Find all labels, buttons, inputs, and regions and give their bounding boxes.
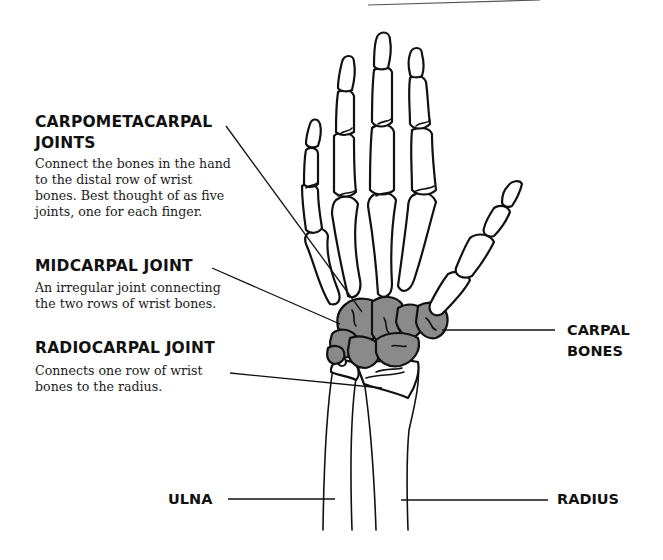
phalanges-thumb — [456, 181, 522, 277]
radiocarpal-title: RADIOCARPAL JOINT — [35, 338, 215, 359]
midcarpal-desc-line1: An irregular joint connecting — [35, 280, 221, 297]
top-rule — [368, 0, 540, 5]
phalanges-ring-finger — [334, 56, 356, 197]
carpometacarpal-desc-line2: to the distal row of wrist — [35, 172, 192, 189]
carpal-bones-label-line1: CARPAL — [567, 320, 630, 340]
carpometacarpal-desc-line1: Connect the bones in the hand — [35, 156, 231, 173]
radius-label: RADIUS — [557, 489, 619, 509]
phalanges-little-finger — [302, 120, 322, 233]
radius-bone — [358, 360, 419, 530]
carpal-bones-label-line2: BONES — [567, 341, 623, 361]
carpometacarpal-title-line2: JOINTS — [35, 133, 96, 154]
carpometacarpal-desc-line4: joints, one for each finger. — [35, 204, 202, 221]
ulna-label: ULNA — [168, 489, 212, 509]
phalanges-middle-finger — [370, 33, 394, 195]
radiocarpal-desc-line2: bones to the radius. — [35, 379, 162, 396]
midcarpal-desc-line2: the two rows of wrist bones. — [35, 296, 216, 313]
carpometacarpal-title-line1: CARPOMETACARPAL — [35, 112, 212, 133]
phalanges-index-finger — [409, 48, 437, 195]
midcarpal-title: MIDCARPAL JOINT — [35, 256, 193, 277]
radiocarpal-desc-line1: Connects one row of wrist — [35, 363, 203, 380]
carpometacarpal-desc-line3: bones. Best thought of as five — [35, 188, 224, 205]
